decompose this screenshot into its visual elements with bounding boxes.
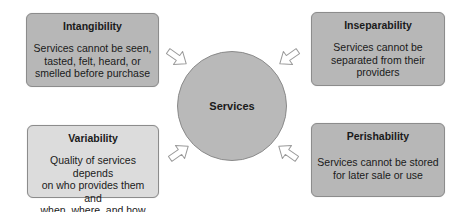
box-title: Intangibility bbox=[27, 20, 158, 32]
box-description: Services cannot be stored for later sale… bbox=[312, 156, 444, 181]
desc-line: Services cannot be bbox=[316, 41, 440, 54]
desc-line: providers bbox=[316, 66, 440, 79]
arrow-left-down-icon bbox=[275, 45, 302, 71]
box-description: Services cannot be seen, tasted, felt, h… bbox=[27, 42, 158, 80]
desc-line: tasted, felt, heard, or bbox=[31, 55, 154, 68]
arrow-shape bbox=[274, 140, 301, 166]
arrow-shape bbox=[166, 140, 193, 166]
arrow-shape bbox=[164, 45, 191, 71]
box-title: Variability bbox=[28, 132, 158, 144]
inseparability-box: Inseparability Services cannot be separa… bbox=[311, 12, 445, 86]
arrow-right-down-icon bbox=[164, 45, 191, 71]
arrow-right-up-icon bbox=[166, 140, 193, 166]
intangibility-box: Intangibility Services cannot be seen, t… bbox=[26, 13, 159, 87]
desc-line: separated from their bbox=[316, 54, 440, 67]
variability-box: Variability Quality of services depends … bbox=[27, 125, 159, 198]
arrow-left-up-icon bbox=[274, 140, 301, 166]
arrow-shape bbox=[275, 45, 302, 71]
desc-line: for later sale or use bbox=[316, 169, 440, 182]
desc-line: smelled before purchase bbox=[31, 67, 154, 80]
perishability-box: Perishability Services cannot be stored … bbox=[311, 123, 445, 197]
box-description: Services cannot be separated from their … bbox=[312, 41, 444, 79]
desc-line: Services cannot be stored bbox=[316, 156, 440, 169]
desc-line: when, where, and how bbox=[32, 204, 154, 212]
services-circle: Services bbox=[177, 51, 287, 161]
desc-line: on who provides them and bbox=[32, 179, 154, 204]
desc-line: Services cannot be seen, bbox=[31, 42, 154, 55]
desc-line: Quality of services depends bbox=[32, 154, 154, 179]
box-title: Perishability bbox=[312, 130, 444, 142]
center-label: Services bbox=[209, 100, 254, 112]
box-description: Quality of services depends on who provi… bbox=[28, 154, 158, 212]
box-title: Inseparability bbox=[312, 19, 444, 31]
